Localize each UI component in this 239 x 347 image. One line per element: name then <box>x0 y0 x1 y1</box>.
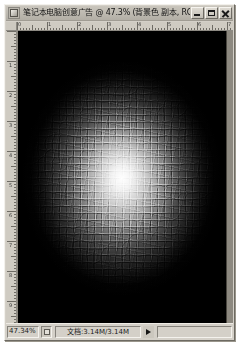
status-bar-filler <box>157 326 232 338</box>
ruler-tick <box>14 187 16 188</box>
ruler-tick <box>158 28 159 30</box>
ruler-tick <box>14 55 16 56</box>
ruler-tick <box>14 190 16 191</box>
ruler-tick <box>29 28 30 30</box>
ruler-tick <box>14 109 16 110</box>
ruler-tick <box>14 238 16 239</box>
ruler-tick <box>131 28 132 30</box>
minimize-icon <box>194 14 200 16</box>
ruler-tick <box>224 28 225 30</box>
document-size-info[interactable]: 文档:3.14M/3.14M <box>55 326 141 338</box>
ruler-label: 5 <box>168 22 171 27</box>
ruler-tick <box>14 112 16 113</box>
ruler-tick <box>14 169 16 170</box>
vertical-ruler[interactable]: 123456789 <box>6 31 17 323</box>
popup-arrow-icon <box>146 329 151 335</box>
ruler-tick <box>14 253 16 254</box>
ruler-tick <box>11 106 16 107</box>
ruler-tick <box>194 28 195 30</box>
minimize-button[interactable] <box>191 7 204 19</box>
ruler-tick <box>14 295 16 296</box>
ruler-tick <box>14 304 16 305</box>
ruler-label: 0 <box>18 22 21 27</box>
ruler-tick <box>14 280 16 281</box>
ruler-tick <box>14 52 16 53</box>
close-button[interactable] <box>219 7 232 19</box>
ruler-tick <box>14 145 16 146</box>
ruler-tick <box>14 157 16 158</box>
ruler-tick <box>14 73 16 74</box>
ruler-tick <box>14 205 16 206</box>
ruler-tick <box>98 28 99 30</box>
status-popup-button[interactable] <box>143 326 154 338</box>
ruler-tick <box>191 28 192 30</box>
ruler-tick <box>11 46 16 47</box>
canvas-scroll-area[interactable] <box>17 31 233 323</box>
ruler-tick <box>155 28 156 30</box>
ruler-tick <box>11 76 16 77</box>
ruler-tick <box>14 184 16 185</box>
ruler-tick <box>14 40 16 41</box>
ruler-tick <box>14 274 16 275</box>
ruler-tick <box>14 37 16 38</box>
ruler-tick <box>218 28 219 30</box>
ruler-tick <box>41 28 42 30</box>
ruler-tick <box>11 226 16 227</box>
resize-grip-button[interactable] <box>41 326 52 338</box>
ruler-tick <box>230 28 231 30</box>
ruler-tick <box>14 298 16 299</box>
ruler-label: 1 <box>48 22 51 27</box>
ruler-tick <box>14 70 16 71</box>
ruler-tick <box>14 160 16 161</box>
ruler-tick <box>23 28 24 30</box>
ruler-tick <box>14 133 16 134</box>
ruler-tick <box>14 79 16 80</box>
ruler-tick <box>14 49 16 50</box>
horizontal-ruler[interactable]: 01234567 <box>17 22 233 31</box>
ruler-tick <box>83 28 84 30</box>
document-canvas[interactable] <box>18 31 227 323</box>
title-bar[interactable]: 笔记本电脑创意广告 @ 47.3% (背景色 副本, RGB/8) <box>6 6 233 21</box>
maximize-icon <box>208 10 215 16</box>
ruler-tick <box>44 28 45 30</box>
ruler-tick <box>11 316 16 317</box>
ruler-label: 2 <box>78 22 81 27</box>
ruler-tick <box>38 28 39 30</box>
resize-grip-icon <box>44 329 50 335</box>
ruler-tick <box>185 28 186 30</box>
zoom-level-field[interactable]: 47.34% <box>7 326 39 338</box>
ruler-tick <box>14 265 16 266</box>
ruler-tick <box>14 229 16 230</box>
ruler-tick <box>188 28 189 30</box>
ruler-tick <box>101 28 102 30</box>
ruler-corner[interactable] <box>6 22 17 31</box>
ruler-tick <box>14 214 16 215</box>
ruler-tick <box>179 28 180 30</box>
ruler-tick <box>14 34 16 35</box>
ruler-tick <box>14 283 16 284</box>
ruler-tick <box>110 28 111 30</box>
ruler-tick <box>14 250 16 251</box>
ruler-tick <box>134 28 135 30</box>
ruler-tick <box>173 28 174 30</box>
ruler-tick <box>11 256 16 257</box>
ruler-tick <box>14 67 16 68</box>
ruler-tick <box>182 25 183 30</box>
ruler-tick <box>221 28 222 30</box>
ruler-tick <box>80 28 81 30</box>
ruler-tick <box>56 28 57 30</box>
ruler-tick <box>11 166 16 167</box>
ruler-tick <box>125 28 126 30</box>
ruler-tick <box>113 28 114 30</box>
ruler-tick <box>14 88 16 89</box>
ruler-tick <box>14 97 16 98</box>
maximize-button[interactable] <box>205 7 218 19</box>
ruler-tick <box>161 28 162 30</box>
ruler-tick <box>203 28 204 30</box>
ruler-tick <box>149 28 150 30</box>
ruler-tick <box>71 28 72 30</box>
ruler-tick <box>50 28 51 30</box>
ruler-tick <box>14 124 16 125</box>
ruler-tick <box>14 310 16 311</box>
ruler-tick <box>53 28 54 30</box>
